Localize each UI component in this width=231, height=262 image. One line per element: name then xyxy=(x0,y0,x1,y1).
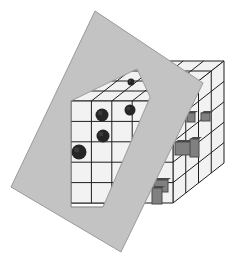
grey-box xyxy=(201,113,210,121)
sphere-highlight xyxy=(129,80,131,82)
sphere xyxy=(125,105,136,116)
grey-box xyxy=(152,188,162,204)
sphere-highlight xyxy=(99,132,104,137)
cube-plane-diagram xyxy=(0,0,231,262)
sphere xyxy=(97,130,110,143)
sphere xyxy=(72,145,87,160)
sphere-highlight xyxy=(74,147,79,152)
sphere xyxy=(96,109,109,122)
sphere-highlight xyxy=(98,111,103,116)
sphere xyxy=(128,79,135,86)
grey-box xyxy=(190,139,199,157)
sphere-highlight xyxy=(126,106,130,110)
